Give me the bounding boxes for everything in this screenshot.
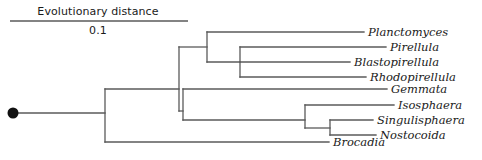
taxon-label-pirellula: Pirellula bbox=[390, 41, 439, 53]
tree-branches bbox=[13, 32, 394, 142]
root-node-dot bbox=[8, 108, 19, 119]
taxon-label-blastopirellula: Blastopirellula bbox=[354, 56, 439, 68]
phylogenetic-tree-figure: Evolutionary distance 0.1 PlanctomycesPi… bbox=[0, 0, 482, 160]
taxon-label-nostocoida: Nostocoida bbox=[380, 129, 446, 141]
taxon-label-brocadia: Brocadia bbox=[333, 136, 385, 148]
taxon-label-planctomyces: Planctomyces bbox=[368, 26, 448, 38]
taxon-label-isosphaera: Isosphaera bbox=[398, 99, 462, 111]
taxon-label-singulisphaera: Singulisphaera bbox=[377, 114, 465, 126]
taxon-label-gemmata: Gemmata bbox=[391, 83, 447, 95]
root-node bbox=[8, 108, 19, 119]
